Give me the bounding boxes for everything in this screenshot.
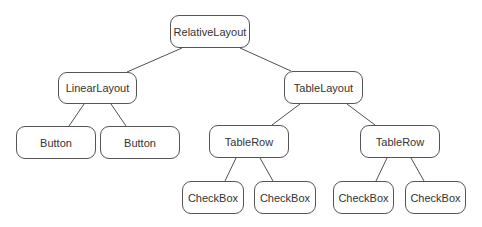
node-label: TableRow: [376, 136, 424, 148]
node-table-layout: TableLayout: [284, 71, 363, 104]
node-label: TableRow: [225, 136, 273, 148]
node-label: LinearLayout: [66, 82, 130, 94]
node-checkbox-4: CheckBox: [405, 181, 466, 214]
node-checkbox-1: CheckBox: [182, 181, 244, 214]
node-label: CheckBox: [338, 192, 388, 204]
node-table-row-1: TableRow: [209, 125, 289, 158]
edge-linear-button2: [111, 104, 126, 126]
edge-row2-check3: [376, 158, 387, 181]
edge-table-row1: [272, 104, 300, 125]
node-label: TableLayout: [294, 82, 353, 94]
node-button-2: Button: [100, 126, 180, 159]
node-table-row-2: TableRow: [360, 125, 440, 158]
node-label: Button: [40, 137, 72, 149]
edge-table-row2: [347, 104, 375, 125]
edge-row1-check2: [260, 158, 273, 181]
node-checkbox-3: CheckBox: [333, 181, 394, 214]
node-linear-layout: LinearLayout: [58, 72, 137, 104]
node-label: CheckBox: [260, 192, 310, 204]
edge-row1-check1: [225, 158, 236, 181]
node-button-1: Button: [16, 126, 96, 159]
edge-row2-check4: [411, 158, 424, 181]
node-label: Button: [124, 137, 156, 149]
edge-relative-table: [240, 48, 291, 71]
node-label: CheckBox: [188, 192, 238, 204]
node-relative-layout: RelativeLayout: [170, 15, 250, 48]
node-label: CheckBox: [410, 192, 460, 204]
edge-relative-linear: [127, 48, 182, 72]
node-checkbox-2: CheckBox: [254, 181, 316, 214]
node-label: RelativeLayout: [174, 26, 247, 38]
edge-linear-button1: [69, 104, 84, 126]
